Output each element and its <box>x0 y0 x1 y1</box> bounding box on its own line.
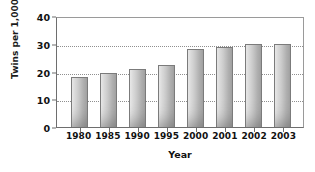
x-tick-mark-2000 <box>196 128 197 132</box>
bar-slot <box>268 18 297 127</box>
bar-slot <box>210 18 239 127</box>
bar-slot <box>94 18 123 127</box>
x-tick-label-2000: 2000 <box>181 131 210 145</box>
x-tick-label-1995: 1995 <box>152 131 181 145</box>
bar-slot <box>65 18 94 127</box>
bar-chart: Twins per 1,000 births 010203040 1980198… <box>0 0 315 172</box>
y-tick-label-10: 10 <box>26 95 50 106</box>
bar-2002 <box>245 44 262 127</box>
bar-slot <box>152 18 181 127</box>
bar-1995 <box>158 65 175 127</box>
x-tick-mark-1980 <box>80 128 81 132</box>
y-tick-label-20: 20 <box>26 67 50 78</box>
x-tick-label-1990: 1990 <box>123 131 152 145</box>
x-axis-ticks: 19801985199019952000200120022003 <box>56 131 304 145</box>
y-tick-label-0: 0 <box>26 123 50 134</box>
x-tick-label-2001: 2001 <box>210 131 239 145</box>
x-tick-label-2002: 2002 <box>240 131 269 145</box>
x-tick-mark-1995 <box>167 128 168 132</box>
x-tick-label-1985: 1985 <box>93 131 122 145</box>
x-tick-mark-2001 <box>225 128 226 132</box>
bar-slot <box>123 18 152 127</box>
plot-area <box>56 17 304 128</box>
bar-series <box>57 18 303 127</box>
x-tick-mark-1985 <box>109 128 110 132</box>
x-tick-mark-2002 <box>254 128 255 132</box>
x-tick-label-1980: 1980 <box>64 131 93 145</box>
y-tick-label-40: 40 <box>26 12 50 23</box>
x-tick-mark-2003 <box>283 128 284 132</box>
x-tick-label-2003: 2003 <box>269 131 298 145</box>
bar-2003 <box>274 44 291 127</box>
y-tick-label-30: 30 <box>26 39 50 50</box>
x-tick-mark-1990 <box>138 128 139 132</box>
x-axis-title: Year <box>56 149 304 160</box>
bar-1980 <box>71 77 88 127</box>
bar-1985 <box>100 73 117 127</box>
bar-slot <box>239 18 268 127</box>
bar-2001 <box>216 47 233 127</box>
bar-1990 <box>129 69 146 127</box>
y-axis-title: Twins per 1,000 births <box>10 0 24 79</box>
bar-slot <box>181 18 210 127</box>
bar-2000 <box>187 49 204 127</box>
